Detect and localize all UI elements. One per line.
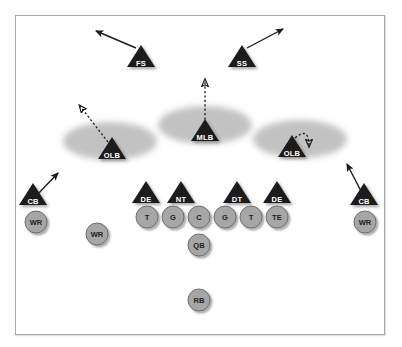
player-olb-right[interactable]: OLB [278, 135, 306, 157]
football-formation-diagram: FS SS CB CB OLB MLB [0, 0, 402, 347]
player-label-wr-right: WR [359, 218, 372, 227]
player-label-lg: G [170, 213, 176, 222]
player-cb-left[interactable]: CB [19, 183, 47, 205]
offense-circle-marker: G [214, 206, 237, 229]
player-mlb[interactable]: MLB [191, 119, 219, 141]
player-wr-left[interactable]: WR [25, 211, 48, 234]
player-label-olb-left: OLB [104, 152, 120, 160]
player-label-fs: FS [136, 60, 146, 68]
player-ss[interactable]: SS [228, 45, 256, 67]
player-label-qb: QB [193, 241, 204, 250]
player-label-dt: DT [232, 196, 242, 204]
offense-circle-marker: C [188, 206, 211, 229]
player-de-left[interactable]: DE [132, 181, 160, 203]
player-label-wr-left: WR [30, 218, 43, 227]
offense-circle-marker: WR [354, 211, 377, 234]
player-lg[interactable]: G [162, 206, 185, 229]
player-rg[interactable]: G [214, 206, 237, 229]
player-label-center: C [196, 213, 202, 222]
player-te[interactable]: TE [266, 206, 289, 229]
offense-circle-marker: RB [188, 289, 211, 312]
player-nt[interactable]: NT [167, 181, 195, 203]
player-label-de-right: DE [272, 196, 283, 204]
player-label-rg: G [222, 213, 228, 222]
player-label-mlb: MLB [197, 134, 214, 142]
field-surface: FS SS CB CB OLB MLB [0, 0, 402, 347]
player-fs[interactable]: FS [127, 45, 155, 67]
player-wr-right[interactable]: WR [354, 211, 377, 234]
offense-circle-marker: QB [188, 234, 211, 257]
player-label-wr-slot: WR [91, 230, 104, 239]
player-label-te: TE [272, 213, 282, 222]
player-label-cb-left: CB [27, 198, 38, 206]
player-label-rb: RB [193, 296, 204, 305]
offense-circle-marker: WR [86, 223, 109, 246]
offense-circle-marker: G [162, 206, 185, 229]
player-de-right[interactable]: DE [263, 181, 291, 203]
player-label-cb-right: CB [358, 198, 369, 206]
player-label-rt: T [249, 213, 254, 222]
player-label-olb-right: OLB [284, 150, 300, 158]
player-rb[interactable]: RB [188, 289, 211, 312]
player-olb-left[interactable]: OLB [98, 137, 126, 159]
player-label-ss: SS [237, 60, 247, 68]
offense-circle-marker: WR [25, 211, 48, 234]
offense-circle-marker: T [136, 206, 159, 229]
player-label-nt: NT [176, 196, 186, 204]
player-lt[interactable]: T [136, 206, 159, 229]
offense-circle-marker: T [240, 206, 263, 229]
player-center[interactable]: C [188, 206, 211, 229]
player-dt[interactable]: DT [223, 181, 251, 203]
player-label-lt: T [145, 213, 150, 222]
player-wr-slot[interactable]: WR [86, 223, 109, 246]
player-qb[interactable]: QB [188, 234, 211, 257]
player-rt[interactable]: T [240, 206, 263, 229]
offense-circle-marker: TE [266, 206, 289, 229]
player-cb-right[interactable]: CB [350, 183, 378, 205]
player-label-de-left: DE [141, 196, 152, 204]
